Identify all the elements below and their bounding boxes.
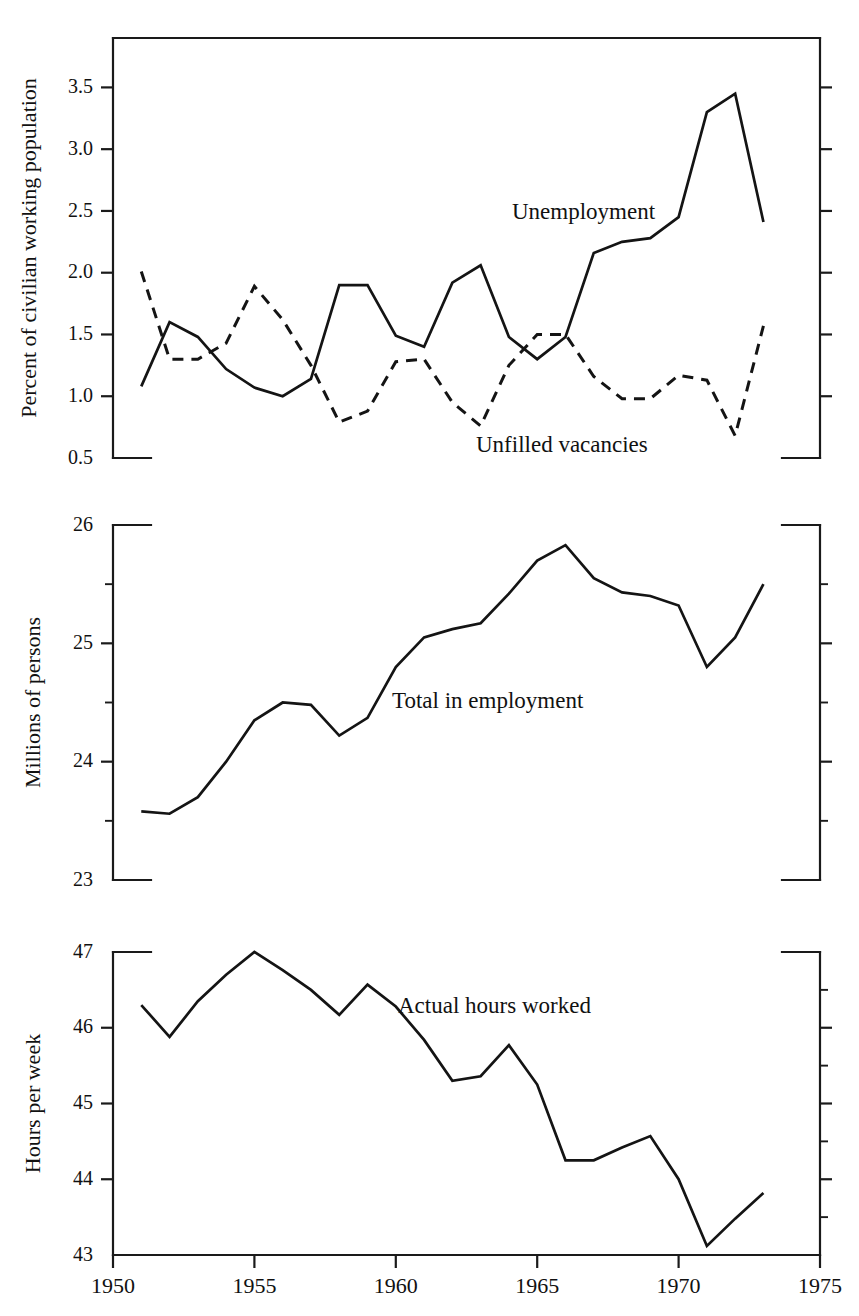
x-tick-label: 1960 <box>374 1273 418 1298</box>
series-annotation-unemployment: Unemployment <box>512 199 656 224</box>
y-tick-label: 3.0 <box>68 137 93 159</box>
unemployment-employment-hours-figure: 3.53.02.52.01.51.00.5Percent of civilian… <box>0 0 859 1316</box>
y-tick-label: 43 <box>73 1243 93 1265</box>
series-annotation-total-in-employment: Total in employment <box>392 688 584 713</box>
multi-panel-line-chart: 3.53.02.52.01.51.00.5Percent of civilian… <box>0 0 859 1316</box>
y-axis-title: Percent of civilian working population <box>16 78 41 418</box>
series-annotation-actual-hours-worked: Actual hours worked <box>398 993 591 1018</box>
y-tick-label: 0.5 <box>68 446 93 468</box>
series-line-unemployment <box>141 94 763 397</box>
series-line-total-in-employment <box>141 545 763 814</box>
x-tick-label: 1955 <box>232 1273 276 1298</box>
series-annotation-unfilled-vacancies: Unfilled vacancies <box>476 432 648 457</box>
y-tick-label: 46 <box>73 1015 93 1037</box>
x-tick-label: 1965 <box>515 1273 559 1298</box>
panel-percent-working-population: 3.53.02.52.01.51.00.5Percent of civilian… <box>16 38 832 468</box>
x-tick-label: 1970 <box>657 1273 701 1298</box>
y-tick-label: 1.5 <box>68 322 93 344</box>
panel-hours-per-week: 4746454443Hours per weekActual hours wor… <box>20 940 832 1265</box>
shared-x-axis: 195019551960196519701975 <box>91 1255 842 1298</box>
y-tick-label: 3.5 <box>68 75 93 97</box>
y-tick-label: 23 <box>73 868 93 890</box>
y-tick-label: 25 <box>73 631 93 653</box>
series-line-unfilled-vacancies <box>141 271 763 435</box>
x-tick-label: 1975 <box>798 1273 842 1298</box>
y-axis-title: Millions of persons <box>20 617 45 788</box>
y-tick-label: 2.0 <box>68 260 93 282</box>
y-tick-label: 26 <box>73 513 93 535</box>
y-tick-label: 44 <box>73 1167 93 1189</box>
y-tick-label: 45 <box>73 1091 93 1113</box>
panel-millions-of-persons: 26252423Millions of personsTotal in empl… <box>20 513 832 890</box>
y-tick-label: 47 <box>73 940 93 962</box>
y-axis-title: Hours per week <box>20 1034 45 1173</box>
y-tick-label: 24 <box>73 749 93 771</box>
x-tick-label: 1950 <box>91 1273 135 1298</box>
y-tick-label: 2.5 <box>68 199 93 221</box>
y-tick-label: 1.0 <box>68 384 93 406</box>
